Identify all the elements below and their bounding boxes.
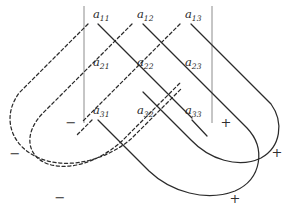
matrix-entry-a11-sub: 11 bbox=[100, 14, 110, 23]
matrix-entry-a33: a33 bbox=[185, 103, 202, 119]
sign-labels-group: − − − + + + bbox=[10, 115, 283, 206]
sign-minus-3: − bbox=[55, 190, 66, 205]
matrix-entry-a12: a12 bbox=[137, 7, 154, 23]
matrix-entry-a23: a23 bbox=[185, 55, 202, 71]
sign-minus-2: − bbox=[10, 146, 21, 161]
positive-diagonal-main bbox=[98, 24, 192, 118]
matrix-entry-a23-sub: 23 bbox=[191, 62, 202, 71]
matrix-entry-a33-sub: 33 bbox=[192, 110, 202, 119]
sign-plus-1: + bbox=[221, 115, 232, 130]
matrix-entry-a32: a32 bbox=[137, 103, 154, 119]
matrix-entry-a13-sub: 13 bbox=[192, 14, 202, 23]
matrix-entry-a21-sub: 21 bbox=[99, 62, 110, 71]
matrix-entry-a21: a21 bbox=[93, 55, 110, 71]
positive-segment-a33-tail bbox=[192, 120, 207, 136]
matrix-entry-a22: a22 bbox=[137, 55, 154, 71]
negative-diagonals-group bbox=[10, 24, 181, 166]
matrix-entry-a31: a31 bbox=[93, 103, 110, 119]
matrix-entry-a12-sub: 12 bbox=[144, 14, 154, 23]
positive-diagonal-wrap-1 bbox=[98, 24, 259, 196]
negative-diagonal-wrap-2 bbox=[10, 24, 181, 163]
negative-diagonal-wrap-1 bbox=[30, 24, 180, 166]
matrix-entry-a11: a11 bbox=[93, 7, 110, 23]
sign-minus-1: − bbox=[66, 115, 77, 130]
matrix-entry-a32-sub: 32 bbox=[144, 110, 154, 119]
matrix-entry-a13: a13 bbox=[185, 7, 202, 23]
rule-of-sarrus-figure: a11 a12 a13 a21 a22 a23 a31 a32 bbox=[0, 0, 290, 218]
sign-plus-3: + bbox=[230, 191, 241, 206]
matrix-entry-labels-group: a11 a12 a13 a21 a22 a23 a31 a32 bbox=[93, 7, 202, 119]
matrix-entry-a22-sub: 22 bbox=[143, 62, 154, 71]
sign-plus-2: + bbox=[272, 145, 283, 160]
sarrus-canvas: a11 a12 a13 a21 a22 a23 a31 a32 bbox=[0, 0, 290, 218]
matrix-entry-a31-sub: 31 bbox=[100, 110, 110, 119]
